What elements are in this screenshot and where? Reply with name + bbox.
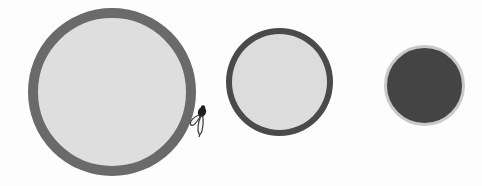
large-circle <box>28 8 196 176</box>
fly-icon <box>186 104 210 138</box>
medium-circle <box>226 28 333 136</box>
canvas <box>0 0 482 186</box>
small-dark-circle <box>384 45 465 126</box>
